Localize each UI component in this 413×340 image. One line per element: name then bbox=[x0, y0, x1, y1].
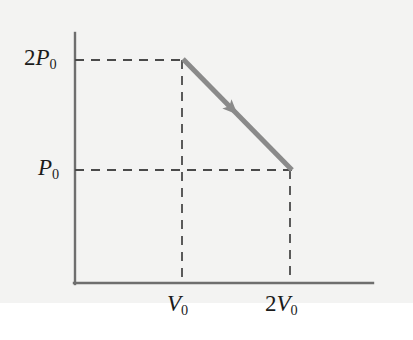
y-label-P0-subscript: 0 bbox=[52, 166, 59, 182]
y-label-2P0-subscript: 0 bbox=[50, 56, 57, 72]
x-label-2V0-coefficient: 2 bbox=[265, 291, 277, 316]
y-axis-label-2P0: 2P0 bbox=[24, 46, 57, 71]
x-label-2V0-subscript: 0 bbox=[291, 302, 298, 318]
y-label-P0-symbol: P bbox=[38, 155, 52, 180]
y-label-2P0-coefficient: 2 bbox=[24, 45, 36, 70]
x-label-V0-symbol: V bbox=[167, 291, 181, 316]
x-label-V0-subscript: 0 bbox=[181, 302, 188, 318]
x-axis-label-2V0: 2V0 bbox=[265, 292, 298, 317]
plot-canvas bbox=[0, 0, 413, 340]
pv-diagram-figure: 2P0 P0 V0 2V0 bbox=[0, 0, 413, 340]
y-axis-label-P0: P0 bbox=[38, 156, 59, 181]
y-label-2P0-symbol: P bbox=[36, 45, 50, 70]
x-label-2V0-symbol: V bbox=[277, 291, 291, 316]
x-axis-label-V0: V0 bbox=[167, 292, 188, 317]
